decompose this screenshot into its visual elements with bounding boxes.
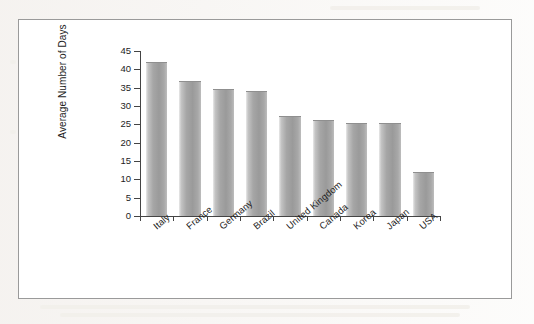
y-axis-label: Average Number of Days <box>57 0 68 167</box>
bar <box>213 89 234 216</box>
bar <box>179 81 200 216</box>
bar <box>146 62 167 216</box>
bar <box>379 123 400 216</box>
bar-series <box>140 51 440 216</box>
bar <box>246 91 267 216</box>
bar <box>413 172 434 216</box>
y-axis-tick-label: 30 <box>97 100 131 111</box>
y-axis-tick-label: 45 <box>97 45 131 56</box>
bar <box>346 123 367 216</box>
y-axis-tick-label: 0 <box>97 210 131 221</box>
y-axis-tick-label: 10 <box>97 173 131 184</box>
y-axis-tick-label: 5 <box>97 192 131 203</box>
figure-frame: Average Number of Days 05101520253035404… <box>18 19 512 299</box>
x-axis-tick <box>140 216 141 221</box>
y-axis-tick-label: 35 <box>97 82 131 93</box>
y-axis-tick-label: 20 <box>97 137 131 148</box>
bar <box>279 116 300 216</box>
x-axis-tick <box>440 216 441 221</box>
plot-area: Average Number of Days 05101520253035404… <box>19 20 511 298</box>
y-axis-tick-label: 25 <box>97 118 131 129</box>
y-axis-tick-label: 40 <box>97 63 131 74</box>
x-axis-tick <box>173 216 174 221</box>
y-axis-tick-label: 15 <box>97 155 131 166</box>
